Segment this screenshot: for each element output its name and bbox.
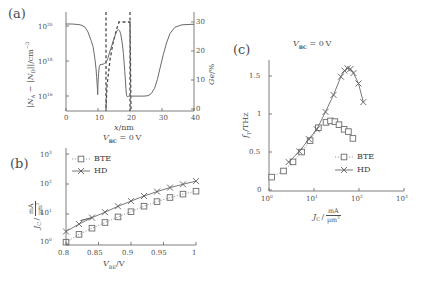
panel-b-legend: BTE HD: [94, 153, 111, 176]
panel-c-legend: BTE HD: [357, 151, 374, 175]
panel-c: (c) VBC = 0 V fT/THz 1.5 1 0.5 0 100 101…: [225, 28, 433, 243]
panel-a: (a) |NA − |ND||/cm−3 Ge/% 1020 1018 1016…: [0, 0, 225, 132]
panel-b-legend-label-hd: HD: [94, 166, 107, 175]
panel-c-hd-markers: [286, 65, 367, 165]
panel-b-legend-item-hd: HD: [94, 165, 111, 176]
panel-b: (b) JC / mAµm2 103 102 101 100 0.8 0.85 …: [0, 132, 225, 282]
panel-c-legend-item-hd: HD: [357, 164, 374, 175]
panel-c-plot: [225, 28, 433, 243]
panel-c-legend-item-bte: BTE: [357, 151, 374, 162]
panel-b-legend-glyphs: [72, 156, 90, 174]
panel-c-bte-markers: [269, 118, 356, 180]
panel-b-bte-curve: [66, 191, 196, 242]
panel-b-bte-markers: [63, 188, 199, 245]
panel-b-legend-label-bte: BTE: [94, 154, 111, 163]
panel-b-plot: [0, 132, 225, 282]
panel-c-legend-label-hd: HD: [357, 165, 370, 174]
panel-a-plot: [0, 0, 225, 132]
panel-b-legend-item-bte: BTE: [94, 153, 111, 164]
panel-b-hd-markers: [63, 178, 199, 234]
panel-c-hd-curve: [289, 68, 364, 162]
panel-c-legend-label-bte: BTE: [357, 152, 374, 161]
panel-c-legend-glyphs: [335, 154, 353, 173]
panel-b-hd-curve: [66, 181, 196, 231]
